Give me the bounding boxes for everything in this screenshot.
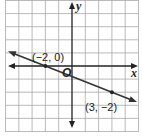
y-axis-down-arrow-icon <box>69 121 75 128</box>
coordinate-plane: y x O (−2, 0) (3, −2) <box>0 0 142 139</box>
point-neg2-0 <box>43 64 47 68</box>
x-axis <box>8 63 138 69</box>
line-left-arrow-icon <box>8 51 17 57</box>
line-right-arrow-icon <box>129 96 138 102</box>
y-axis-label: y <box>74 0 82 13</box>
point-label-neg2-0: (−2, 0) <box>32 51 64 63</box>
point-label-3-neg2: (3, −2) <box>85 101 117 113</box>
x-axis-label: x <box>130 66 137 80</box>
y-axis-up-arrow-icon <box>69 2 75 9</box>
y-axis <box>69 2 75 128</box>
x-axis-left-arrow-icon <box>8 63 15 69</box>
point-3-neg2 <box>110 90 114 94</box>
origin-label: O <box>62 66 72 80</box>
